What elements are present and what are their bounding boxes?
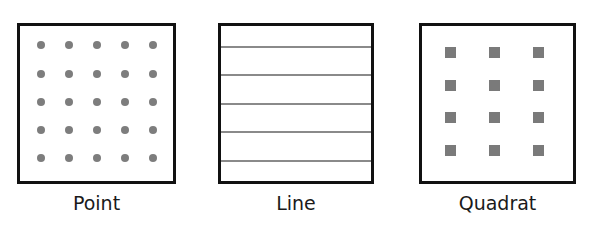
quadrat-square bbox=[533, 112, 544, 123]
sample-point-dot bbox=[93, 154, 101, 162]
sample-point-dot bbox=[65, 41, 73, 49]
transect-line-1 bbox=[221, 46, 371, 48]
sample-point-dot bbox=[93, 126, 101, 134]
sample-point-dot bbox=[121, 98, 129, 106]
sample-point-dot bbox=[93, 98, 101, 106]
sample-point-dot bbox=[65, 98, 73, 106]
quadrat-square bbox=[445, 80, 456, 91]
sample-point-dot bbox=[121, 126, 129, 134]
quadrat-label: Quadrat bbox=[419, 192, 576, 214]
sample-point-dot bbox=[149, 70, 157, 78]
line-label: Line bbox=[218, 192, 374, 214]
sample-point-dot bbox=[37, 70, 45, 78]
point-sampling-box bbox=[17, 23, 176, 184]
sample-point-dot bbox=[121, 70, 129, 78]
sample-point-dot bbox=[149, 126, 157, 134]
sample-point-dot bbox=[65, 154, 73, 162]
line-sampling-box bbox=[218, 23, 374, 184]
quadrat-square bbox=[489, 112, 500, 123]
quadrat-square bbox=[489, 80, 500, 91]
quadrat-square bbox=[489, 145, 500, 156]
sample-point-dot bbox=[65, 70, 73, 78]
sample-point-dot bbox=[65, 126, 73, 134]
quadrat-square bbox=[445, 47, 456, 58]
transect-line-3 bbox=[221, 103, 371, 105]
sample-point-dot bbox=[93, 70, 101, 78]
sample-point-dot bbox=[149, 41, 157, 49]
transect-line-5 bbox=[221, 160, 371, 162]
quadrat-square bbox=[533, 80, 544, 91]
sample-point-dot bbox=[37, 126, 45, 134]
quadrat-square bbox=[533, 145, 544, 156]
sample-point-dot bbox=[37, 154, 45, 162]
quadrat-square bbox=[445, 112, 456, 123]
sample-point-dot bbox=[121, 154, 129, 162]
quadrat-square bbox=[489, 47, 500, 58]
point-label: Point bbox=[17, 192, 176, 214]
sample-point-dot bbox=[149, 154, 157, 162]
transect-line-2 bbox=[221, 74, 371, 76]
sample-point-dot bbox=[149, 98, 157, 106]
quadrat-sampling-box bbox=[419, 23, 576, 184]
sample-point-dot bbox=[37, 41, 45, 49]
sample-point-dot bbox=[93, 41, 101, 49]
transect-line-4 bbox=[221, 131, 371, 133]
sample-point-dot bbox=[121, 41, 129, 49]
quadrat-square bbox=[445, 145, 456, 156]
quadrat-square bbox=[533, 47, 544, 58]
sample-point-dot bbox=[37, 98, 45, 106]
